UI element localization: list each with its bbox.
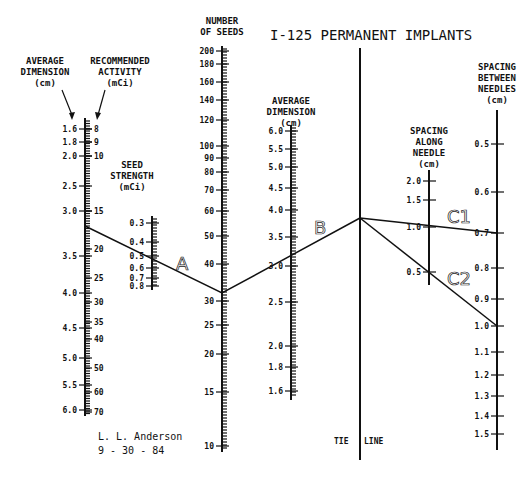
tick-label: 30 — [94, 298, 104, 307]
tick-label: 1.8 — [269, 363, 284, 372]
tick-label: 2.0 — [269, 342, 284, 351]
scale-header: AVERAGE — [272, 96, 310, 106]
tick-label: 0.6 — [475, 188, 490, 197]
tick-label: 50 — [204, 232, 214, 241]
tick-label: 3.5 — [63, 252, 78, 261]
tick-label: 60 — [94, 388, 104, 397]
scale-header: RECOMMENDED — [90, 56, 150, 66]
tick-label: 0.4 — [130, 238, 145, 247]
scale-header: AVERAGE — [26, 56, 64, 66]
tick-label: 90 — [204, 154, 214, 163]
tick-label: 5.5 — [269, 145, 284, 154]
tick-label: 70 — [94, 408, 104, 417]
tick-label: 9 — [94, 138, 99, 147]
tick-label: 1.0 — [475, 322, 490, 331]
route-label-b: B — [314, 217, 326, 238]
tick-label: 0.5 — [475, 140, 490, 149]
scale-header: (cm) — [34, 78, 56, 88]
tick-label: 160 — [200, 78, 215, 87]
route-label-c1: C1 — [447, 206, 471, 227]
tie-label: TIE — [334, 437, 349, 446]
tick-label: 1.5 — [475, 430, 490, 439]
route-label-a: A — [176, 253, 189, 274]
tick-label: 0.9 — [475, 295, 490, 304]
tick-label: 5.0 — [269, 163, 284, 172]
scale-seed-strength: 0.30.40.50.60.70.8 — [130, 216, 159, 291]
tick-label: 0.6 — [130, 264, 145, 273]
tick-label: 0.8 — [130, 282, 145, 291]
tick-label: 0.3 — [130, 219, 145, 228]
tick-label: 140 — [200, 96, 215, 105]
scale-avg-dim-2: 6.05.55.04.54.03.53.02.52.01.81.6 — [269, 125, 298, 400]
tick-label: 3.5 — [269, 233, 284, 242]
tick-label: 10 — [94, 152, 104, 161]
tick-label: 20 — [204, 350, 214, 359]
tick-label: 5.0 — [63, 354, 78, 363]
scale-header: SPACING — [410, 126, 448, 136]
tick-label: 25 — [204, 321, 214, 330]
tick-label: 1.8 — [63, 138, 78, 147]
tick-label: 40 — [204, 260, 214, 269]
arrow-icon — [62, 90, 75, 120]
scale-header: NEEDLES — [478, 84, 516, 94]
scale-header: NUMBER — [206, 16, 239, 26]
tick-label: 15 — [204, 388, 214, 397]
scale-header: BETWEEN — [478, 73, 516, 83]
route-label-c2: C2 — [447, 268, 471, 289]
scale-header: DIMENSION — [267, 107, 316, 117]
tick-label: 0.8 — [475, 264, 490, 273]
scale-header: (mCi) — [106, 78, 133, 88]
tick-label: 4.5 — [63, 324, 78, 333]
scale-header: ALONG — [415, 137, 442, 147]
scale-header: NEEDLE — [413, 148, 446, 158]
tick-label: 1.6 — [63, 125, 78, 134]
scale-header: STRENGTH — [110, 171, 153, 181]
arrow-icon — [95, 90, 105, 120]
author: L. L. Anderson — [98, 431, 182, 442]
tick-label: 2.5 — [269, 298, 284, 307]
scale-header: SEED — [121, 160, 143, 170]
tick-label: 200 — [200, 47, 215, 56]
tick-label: 80 — [204, 168, 214, 177]
tick-label: 120 — [200, 116, 215, 125]
tick-label: 2.5 — [63, 182, 78, 191]
tick-label: 2.0 — [407, 177, 422, 186]
chart-title: I-125 PERMANENT IMPLANTS — [270, 27, 472, 43]
tick-label: 3.0 — [63, 207, 78, 216]
tick-label: 40 — [94, 335, 104, 344]
scale-header: ACTIVITY — [98, 67, 142, 77]
tick-label: 2.0 — [63, 152, 78, 161]
tick-label: 5.5 — [63, 381, 78, 390]
scale-spacing-along: 2.01.51.00.5 — [407, 170, 436, 285]
date: 9 - 30 - 84 — [98, 445, 164, 456]
scale-header: DIMENSION — [21, 67, 70, 77]
tick-label: 4.5 — [269, 184, 284, 193]
scale-avg-dim-1: 1.61.82.02.53.03.54.04.55.05.56.0 — [63, 118, 92, 416]
tick-label: 4.0 — [63, 289, 78, 298]
scale-header: (mCi) — [118, 182, 145, 192]
tick-label: 1.5 — [407, 196, 422, 205]
tick-label: 0.5 — [407, 268, 422, 277]
tick-label: 100 — [200, 142, 215, 151]
tick-label: 1.1 — [475, 348, 490, 357]
nomogram: I-125 PERMANENT IMPLANTS AVERAGEDIMENSIO… — [0, 0, 528, 478]
tick-label: 1.3 — [475, 392, 490, 401]
nomogram-canvas: I-125 PERMANENT IMPLANTS AVERAGEDIMENSIO… — [0, 0, 528, 478]
tick-label: 25 — [94, 274, 104, 283]
tick-label: 180 — [200, 60, 215, 69]
tick-label: 60 — [204, 207, 214, 216]
scale-header: SPACING — [478, 62, 516, 72]
scale-header: (cm) — [486, 95, 508, 105]
tick-label: 8 — [94, 125, 99, 134]
tick-label: 30 — [204, 297, 214, 306]
tick-label: 6.0 — [269, 127, 284, 136]
scale-num-seeds: 2001801601401201009080706050403025201510 — [200, 46, 229, 452]
tick-label: 6.0 — [63, 406, 78, 415]
scale-spacing-between: 0.50.60.70.80.91.01.11.21.31.41.5 — [475, 110, 504, 450]
tick-label: 70 — [204, 186, 214, 195]
tick-label: 35 — [94, 318, 104, 327]
tick-label: 50 — [94, 364, 104, 373]
scale-header: OF SEEDS — [200, 27, 243, 37]
tick-label: 15 — [94, 207, 104, 216]
tick-label: 1.2 — [475, 371, 490, 380]
